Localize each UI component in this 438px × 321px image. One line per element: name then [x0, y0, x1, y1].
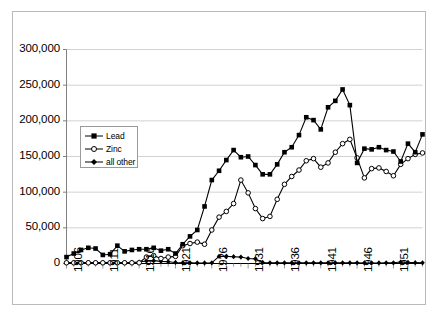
- data-point: [348, 103, 353, 108]
- data-point: [282, 150, 287, 155]
- legend-label: all other: [106, 157, 135, 167]
- x-axis-tick-label: 1906: [72, 247, 84, 272]
- data-point: [391, 149, 396, 154]
- legend-item-lead: Lead: [84, 130, 125, 143]
- data-point: [202, 204, 207, 209]
- data-point: [180, 242, 185, 247]
- data-point: [369, 166, 374, 171]
- data-point: [86, 246, 91, 251]
- data-point: [268, 214, 273, 219]
- data-point: [130, 260, 135, 265]
- y-axis-tick-label: 100,000: [0, 185, 60, 197]
- y-axis-tick-label: 200,000: [0, 113, 60, 125]
- data-point: [195, 240, 200, 245]
- data-point: [311, 156, 316, 161]
- x-axis-tick-label: 1941: [326, 247, 338, 272]
- data-point: [122, 249, 127, 254]
- data-point: [297, 168, 302, 173]
- legend-item-all-other: all other: [84, 156, 135, 169]
- x-axis-tick-label: 1911: [108, 248, 120, 272]
- data-point: [406, 141, 411, 146]
- data-point: [355, 161, 360, 166]
- legend-label: Zinc: [106, 144, 122, 154]
- data-point: [64, 255, 69, 260]
- data-point: [384, 169, 389, 174]
- data-point: [159, 248, 164, 253]
- data-point: [333, 99, 338, 104]
- data-point: [297, 133, 302, 138]
- data-point: [333, 150, 338, 155]
- data-point: [260, 172, 265, 177]
- chart-figure: 050,000100,000150,000200,000250,000300,0…: [0, 0, 438, 321]
- x-axis-tick-label: 1916: [144, 247, 156, 272]
- data-point: [348, 137, 353, 142]
- data-point: [253, 206, 258, 211]
- data-point: [413, 150, 418, 155]
- data-point: [420, 151, 425, 156]
- data-point: [217, 168, 222, 173]
- data-point: [340, 141, 345, 146]
- y-axis-tick-label: 300,000: [0, 42, 60, 54]
- data-point: [253, 163, 258, 168]
- data-point: [202, 242, 207, 247]
- x-axis-tick-label: 1931: [253, 247, 265, 272]
- data-point: [210, 178, 215, 183]
- data-point: [93, 246, 98, 251]
- data-point: [173, 251, 178, 256]
- data-point: [384, 148, 389, 153]
- data-point: [340, 87, 345, 92]
- data-point: [377, 166, 382, 171]
- chart-plot-area: [0, 0, 438, 321]
- data-point: [210, 228, 215, 233]
- data-point: [289, 174, 294, 179]
- data-point: [377, 145, 382, 150]
- data-point: [362, 176, 367, 181]
- data-point: [159, 256, 164, 261]
- legend-label: Lead: [106, 131, 125, 141]
- filled-diamond-icon: [84, 157, 104, 167]
- data-point: [137, 260, 142, 265]
- data-point: [224, 209, 229, 214]
- data-point: [130, 248, 135, 253]
- data-point: [101, 260, 106, 265]
- data-point: [289, 145, 294, 150]
- data-point: [93, 260, 98, 265]
- data-point: [101, 253, 106, 258]
- y-axis-tick-label: 250,000: [0, 78, 60, 90]
- data-point: [304, 115, 309, 120]
- data-point: [217, 215, 222, 220]
- data-point: [420, 132, 425, 137]
- data-point: [188, 241, 193, 246]
- data-point: [239, 155, 244, 160]
- data-point: [318, 165, 323, 170]
- data-point: [311, 118, 316, 123]
- y-axis-tick-label: 0: [0, 256, 60, 268]
- x-axis-tick-label: 1926: [217, 247, 229, 272]
- data-point: [369, 147, 374, 152]
- data-point: [275, 162, 280, 167]
- data-point: [231, 201, 236, 206]
- data-point: [260, 216, 265, 221]
- data-point: [268, 172, 273, 177]
- x-axis-tick-label: 1946: [362, 247, 374, 272]
- data-point: [326, 105, 331, 110]
- y-axis-tick-label: 150,000: [0, 149, 60, 161]
- data-point: [326, 161, 331, 166]
- data-point: [391, 173, 396, 178]
- data-point: [224, 158, 229, 163]
- data-point: [86, 260, 91, 265]
- data-point: [195, 228, 200, 233]
- data-point: [282, 182, 287, 187]
- filled-square-icon: [84, 131, 104, 141]
- open-circle-icon: [84, 144, 104, 154]
- data-point: [239, 178, 244, 183]
- data-point: [304, 158, 309, 163]
- chart-legend: LeadZincall other: [80, 126, 138, 168]
- data-point: [166, 247, 171, 252]
- data-point: [362, 146, 367, 151]
- data-point: [246, 191, 251, 196]
- x-axis-tick-label: 1951: [398, 247, 410, 272]
- legend-item-zinc: Zinc: [84, 143, 122, 156]
- data-point: [231, 148, 236, 153]
- data-point: [137, 247, 142, 252]
